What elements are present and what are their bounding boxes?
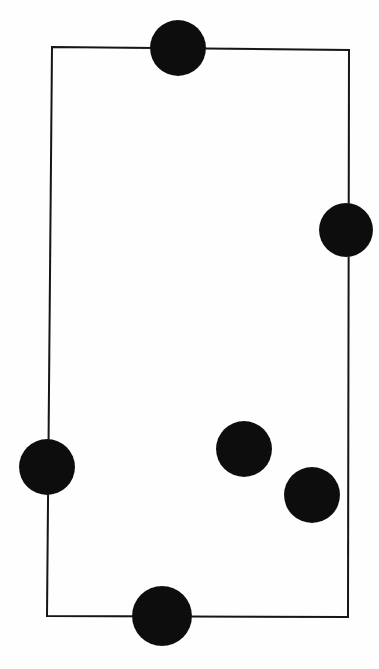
dot-top <box>150 20 206 76</box>
figure-background <box>0 0 379 669</box>
diagram-svg <box>0 0 379 669</box>
dot-left <box>19 439 75 495</box>
dot-bottom <box>132 586 192 646</box>
dot-interior-lower-right <box>284 467 340 523</box>
dot-right <box>319 203 373 257</box>
figure-canvas: Rectangle outline with six filled black … <box>0 0 379 669</box>
dot-interior-middle <box>216 421 272 477</box>
